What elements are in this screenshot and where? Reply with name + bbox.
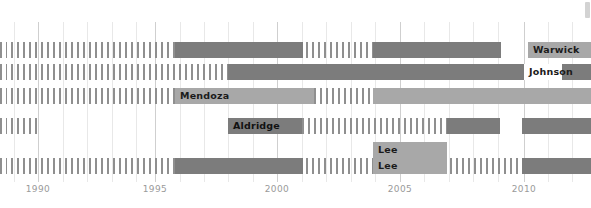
x-axis-tick-label-1990: 1990 [26,184,51,194]
bar-segment-aldridge-0[interactable] [0,118,7,134]
x-axis-tick-label-2000: 2000 [265,184,290,194]
timeline-row-aldridge[interactable]: Aldridge [0,118,591,134]
bar-segment-mendoza-3[interactable] [314,88,373,104]
bar-label-mendoza: Mendoza [175,88,241,104]
bar-segment-aldridge-4[interactable] [447,118,500,134]
scrollbar-thumb[interactable] [585,2,590,18]
bar-segment-johnson-1[interactable] [11,64,228,80]
timeline-row-warwick[interactable]: Warwick [0,42,591,58]
bar-segment-aldridge-5[interactable] [522,118,591,134]
bar-label-warwick: Warwick [528,42,591,58]
bar-segment-warwick-2[interactable] [175,42,303,58]
bar-segment-lee-4[interactable] [522,158,591,174]
bar-segment-warwick-4[interactable] [373,42,501,58]
x-axis-tick-label-1995: 1995 [143,184,168,194]
bar-segment-mendoza-0[interactable] [0,88,7,104]
bar-segment-warwick-3[interactable] [306,42,373,58]
bar-segment-mendoza-1[interactable] [11,88,175,104]
timeline-row-johnson[interactable]: Johnson [0,64,591,80]
bar-label-extra-lee: Lee [373,142,447,158]
timeline-row-mendoza[interactable]: Mendoza [0,88,591,104]
bar-segment-aldridge-3[interactable] [302,118,447,134]
x-axis-tick-label-2005: 2005 [388,184,413,194]
bar-segment-lee-1[interactable] [11,158,175,174]
bar-segment-warwick-0[interactable] [0,42,7,58]
bar-segment-johnson-0[interactable] [0,64,7,80]
bar-label-johnson: Johnson [524,64,562,80]
bar-segment-aldridge-1[interactable] [11,118,41,134]
bar-segment-mendoza-4[interactable] [373,88,591,104]
bar-segment-lee-2[interactable] [175,158,303,174]
bar-label-lee: Lee [373,158,447,174]
bar-segment-lee-0[interactable] [0,158,7,174]
timeline-chart: WarwickJohnsonMendozaAldridgeLeeLee 1990… [0,0,591,208]
x-axis-tick-label-2010: 2010 [512,184,537,194]
timeline-row-lee[interactable]: Lee [0,158,591,174]
bar-segment-warwick-1[interactable] [11,42,175,58]
bar-label-aldridge: Aldridge [228,118,302,134]
